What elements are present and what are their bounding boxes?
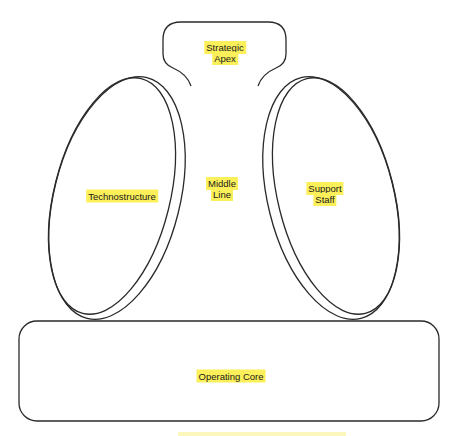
highlight-strip — [178, 432, 346, 436]
support-staff-label: Support Staff — [306, 183, 343, 205]
operating-core-label: Operating Core — [197, 371, 266, 382]
strategic-apex-label: Strategic Apex — [204, 42, 246, 64]
middle-line-label: Middle Line — [206, 178, 238, 200]
technostructure-label: Technostructure — [86, 191, 158, 202]
